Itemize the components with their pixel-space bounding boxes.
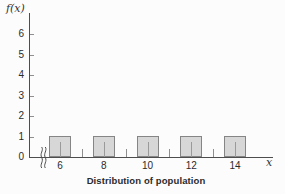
axis-break-icon (39, 147, 49, 168)
y-tick (30, 116, 34, 117)
x-tick-label: 10 (133, 160, 163, 171)
x-minor-tick (213, 149, 214, 157)
x-tick-label: 8 (89, 160, 119, 171)
x-tick-label: 6 (45, 160, 75, 171)
y-tick-label: 6 (2, 28, 24, 40)
y-tick-label: 2 (2, 110, 24, 122)
x-tick (104, 142, 105, 157)
y-tick-label: 0 (2, 151, 24, 163)
y-tick-label: 4 (2, 69, 24, 81)
x-minor-tick (169, 149, 170, 157)
y-tick (30, 34, 34, 35)
x-tick (148, 142, 149, 157)
y-tick-label: 1 (2, 131, 24, 143)
y-tick-label: 5 (2, 49, 24, 61)
x-axis-line (29, 157, 273, 158)
y-tick-label: 3 (2, 90, 24, 102)
y-tick (30, 75, 34, 76)
x-axis-title: x (266, 156, 272, 169)
x-minor-tick (82, 149, 83, 157)
y-axis-title: f(x) (6, 2, 25, 15)
x-tick (235, 142, 236, 157)
x-tick-label: 14 (220, 160, 250, 171)
x-minor-tick (126, 149, 127, 157)
chart-caption: Distribution of population (29, 175, 263, 186)
x-tick (191, 142, 192, 157)
x-tick-label: 12 (176, 160, 206, 171)
uniform-distribution-figure: f(x) 012345668101214 x Distribution of p… (0, 0, 285, 194)
y-tick (30, 96, 34, 97)
y-tick (30, 55, 34, 56)
y-tick (30, 137, 34, 138)
x-tick (60, 142, 61, 157)
